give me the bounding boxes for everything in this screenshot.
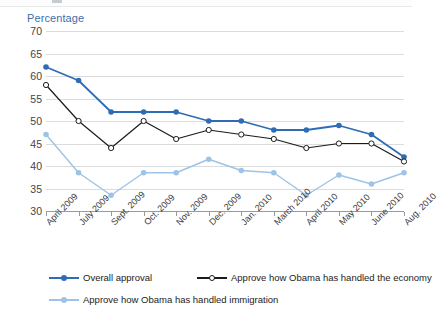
data-point-marker (271, 170, 277, 176)
data-point-marker (173, 170, 179, 176)
data-point-marker (43, 64, 49, 70)
y-axis-tick-label: 55 (6, 94, 42, 105)
chart-legend: Overall approvalApprove how Obama has ha… (0, 272, 412, 320)
data-point-marker (271, 127, 277, 133)
data-point-marker (238, 118, 244, 124)
legend-label: Approve how Obama has handled the econom… (231, 272, 432, 283)
legend-row: Approve how Obama has handled immigratio… (0, 294, 412, 314)
data-point-marker (336, 141, 341, 146)
legend-item[interactable]: Approve how Obama has handled immigratio… (49, 294, 278, 305)
data-point-marker (369, 181, 375, 187)
legend-swatch-icon (49, 273, 79, 283)
y-axis-tick-label: 60 (6, 71, 42, 82)
series-lines (46, 31, 404, 211)
data-point-marker (238, 168, 244, 174)
legend-label: Overall approval (83, 272, 152, 283)
legend-item[interactable]: Overall approval (49, 272, 152, 283)
y-axis-tick-labels: 706560555045403530 (0, 31, 42, 211)
data-point-marker (76, 170, 82, 176)
data-point-marker (108, 145, 113, 150)
data-point-marker (141, 170, 147, 176)
data-point-marker (206, 127, 211, 132)
x-axis-tick-mark (144, 212, 145, 216)
data-point-marker (141, 118, 146, 123)
legend-swatch-icon (197, 273, 227, 283)
data-point-marker (304, 145, 309, 150)
legend-row: Overall approvalApprove how Obama has ha… (0, 272, 412, 292)
legend-swatch-icon (49, 295, 79, 305)
data-point-marker (271, 136, 276, 141)
legend-item[interactable]: Approve how Obama has handled the econom… (197, 272, 432, 283)
x-axis-tick-labels: April 2009July 2009Sept. 2009Oct. 2009No… (0, 218, 412, 270)
y-axis-tick-label: 45 (6, 139, 42, 150)
data-point-marker (369, 132, 375, 138)
data-point-marker (369, 141, 374, 146)
data-point-marker (141, 109, 147, 115)
data-point-marker (239, 132, 244, 137)
data-point-marker (401, 159, 406, 164)
data-point-marker (43, 132, 49, 138)
data-point-marker (108, 109, 114, 115)
data-point-marker (43, 82, 48, 87)
data-point-marker (173, 109, 179, 115)
data-point-marker (336, 172, 342, 178)
legend-label: Approve how Obama has handled immigratio… (83, 294, 278, 305)
data-point-marker (304, 127, 310, 133)
y-axis-tick-label: 30 (6, 206, 42, 217)
data-point-marker (336, 123, 342, 129)
cropped-title-strip (0, 0, 412, 7)
data-point-marker (206, 118, 212, 124)
series-line (46, 85, 404, 162)
x-axis-tick-label: Aug. 2010 (402, 191, 438, 227)
y-axis-title: Percentage (27, 12, 84, 24)
y-axis-tick-label: 35 (6, 184, 42, 195)
y-axis-tick-label: 70 (6, 26, 42, 37)
data-point-marker (206, 156, 212, 162)
y-axis-tick-label: 40 (6, 161, 42, 172)
x-axis-tick-mark (209, 212, 210, 216)
data-point-marker (174, 136, 179, 141)
plot-area (46, 31, 404, 211)
y-axis-tick-label: 50 (6, 116, 42, 127)
y-axis-tick-label: 65 (6, 49, 42, 60)
data-point-marker (76, 118, 81, 123)
cropped-title-remnant (52, 0, 62, 3)
data-point-marker (401, 170, 407, 176)
data-point-marker (76, 78, 82, 84)
x-axis-tick-mark (79, 212, 80, 216)
